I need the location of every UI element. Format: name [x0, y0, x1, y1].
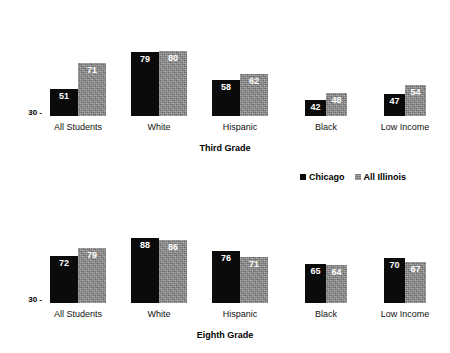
category-label: Hispanic — [195, 309, 285, 320]
bar-group: 8886 — [131, 238, 187, 303]
legend-entry-chicago[interactable]: Chicago — [300, 172, 345, 182]
legend-label-all-illinois: All Illinois — [364, 172, 407, 182]
bar-value-label: 62 — [240, 76, 268, 86]
bar-group: 7279 — [50, 248, 106, 303]
bar-value-label: 42 — [305, 102, 326, 112]
bar-value-label: 48 — [326, 95, 347, 105]
y-axis-tick-label-eighth: 30 - — [8, 295, 42, 304]
bar-group: 7671 — [212, 251, 268, 303]
category-label: Low Income — [360, 122, 450, 133]
bar-group: 5862 — [212, 74, 268, 116]
bar-illinois[interactable]: 71 — [78, 63, 106, 116]
bar-group: 6564 — [305, 264, 347, 303]
bar-illinois[interactable]: 86 — [159, 240, 187, 303]
bar-illinois[interactable]: 62 — [240, 74, 268, 116]
category-label: Hispanic — [195, 122, 285, 133]
bar-illinois[interactable]: 64 — [326, 265, 347, 303]
bar-value-label: 86 — [159, 242, 187, 252]
bar-value-label: 72 — [50, 258, 78, 268]
bar-chicago[interactable]: 88 — [131, 238, 159, 303]
bar-value-label: 79 — [78, 250, 106, 260]
bar-value-label: 71 — [240, 259, 268, 269]
bar-illinois[interactable]: 80 — [159, 51, 187, 116]
bar-chicago[interactable]: 76 — [212, 251, 240, 303]
bar-value-label: 67 — [405, 264, 426, 274]
category-label: Low Income — [360, 309, 450, 320]
bar-value-label: 64 — [326, 267, 347, 277]
bar-group: 4248 — [305, 93, 347, 116]
bar-value-label: 58 — [212, 82, 240, 92]
category-label: All Students — [33, 309, 123, 320]
bar-group: 7980 — [131, 51, 187, 116]
legend-entry-all-illinois[interactable]: All Illinois — [355, 172, 407, 182]
category-label: Black — [281, 122, 371, 133]
bar-illinois[interactable]: 48 — [326, 93, 347, 116]
bar-value-label: 79 — [131, 54, 159, 64]
bar-value-label: 76 — [212, 253, 240, 263]
bar-illinois[interactable]: 54 — [405, 85, 426, 116]
bar-group: 4754 — [384, 85, 426, 116]
bar-chicago[interactable]: 47 — [384, 94, 405, 116]
bar-value-label: 71 — [78, 65, 106, 75]
category-label: All Students — [33, 122, 123, 133]
chart-legend: Chicago All Illinois — [300, 170, 444, 184]
bar-illinois[interactable]: 67 — [405, 262, 426, 303]
bar-chicago[interactable]: 51 — [50, 89, 78, 116]
bar-chicago[interactable]: 42 — [305, 100, 326, 116]
category-label: White — [114, 122, 204, 133]
bar-group: 5171 — [50, 63, 106, 116]
bar-value-label: 70 — [384, 260, 405, 270]
bar-value-label: 47 — [384, 96, 405, 106]
bar-illinois[interactable]: 71 — [240, 257, 268, 303]
bar-value-label: 88 — [131, 240, 159, 250]
chart-title-third-grade: Third Grade — [0, 143, 450, 153]
y-axis-tick-label-third: 30 - — [8, 108, 42, 117]
chart-eighth-grade: 30 - 7279All Students8886White7671Hispan… — [0, 183, 450, 353]
bar-chicago[interactable]: 79 — [131, 52, 159, 116]
bar-chicago[interactable]: 70 — [384, 258, 405, 303]
chart-title-eighth-grade: Eighth Grade — [0, 330, 450, 340]
bar-value-label: 80 — [159, 53, 187, 63]
bar-group: 7067 — [384, 258, 426, 303]
category-label: White — [114, 309, 204, 320]
bar-value-label: 54 — [405, 87, 426, 97]
bar-chicago[interactable]: 72 — [50, 256, 78, 303]
bar-chicago[interactable]: 58 — [212, 80, 240, 116]
black-square-icon — [300, 174, 306, 180]
bar-chicago[interactable]: 65 — [305, 264, 326, 303]
category-label: Black — [281, 309, 371, 320]
chart-third-grade: 30 - 5171All Students7980White5862Hispan… — [0, 0, 450, 170]
bar-illinois[interactable]: 79 — [78, 248, 106, 303]
bar-value-label: 51 — [50, 91, 78, 101]
legend-label-chicago: Chicago — [309, 172, 345, 182]
bar-value-label: 65 — [305, 266, 326, 276]
gray-square-icon — [355, 174, 361, 180]
